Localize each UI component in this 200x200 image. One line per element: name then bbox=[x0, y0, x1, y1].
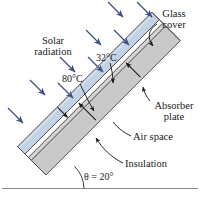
solar-arrow-9 bbox=[8, 108, 23, 123]
solar-arrow-2 bbox=[137, 2, 152, 17]
glass-cover-label: Glass cover bbox=[152, 8, 196, 30]
glass-cover-line2: cover bbox=[162, 19, 185, 30]
glass-cover-line1: Glass bbox=[162, 8, 185, 19]
solar-arrow-8 bbox=[58, 83, 73, 98]
absorber-plate-label: Absorber plate bbox=[150, 100, 198, 122]
air-space-label: Air space bbox=[133, 131, 173, 142]
absorber-plate-line2: plate bbox=[164, 111, 184, 122]
cover-temperature-label: 32°C bbox=[96, 53, 117, 64]
solar-radiation-label: Solar radiation bbox=[24, 35, 82, 57]
absorber-temperature-label: 80°C bbox=[62, 74, 83, 85]
insulation-label: Insulation bbox=[125, 158, 167, 169]
air-space-leader bbox=[113, 122, 131, 136]
solar-radiation-line1: Solar bbox=[42, 35, 64, 46]
solar-collector-diagram: Solar radiation Glass cover 32°C 80°C Ab… bbox=[0, 0, 200, 200]
solar-arrow-7 bbox=[30, 80, 45, 95]
absorber-plate-leader bbox=[143, 87, 150, 101]
solar-radiation-line2: radiation bbox=[34, 46, 71, 57]
insulation-leader bbox=[96, 138, 123, 163]
solar-arrow-5 bbox=[60, 57, 75, 72]
absorber-plate-line1: Absorber bbox=[154, 100, 193, 111]
solar-arrow-1 bbox=[108, 2, 123, 17]
solar-arrow-3 bbox=[86, 30, 101, 45]
angle-arc bbox=[75, 166, 85, 188]
tilt-angle-label: θ = 20° bbox=[84, 172, 113, 183]
